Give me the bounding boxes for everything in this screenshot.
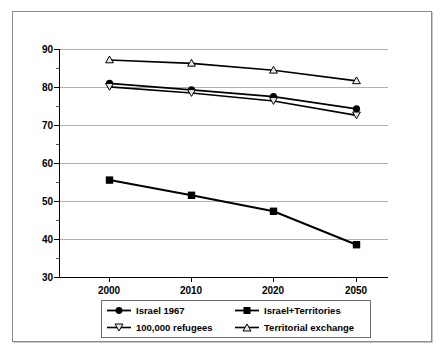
legend-marker-triangle-up bbox=[234, 322, 260, 333]
y-axis-major-ticks bbox=[54, 50, 59, 278]
marker-square bbox=[188, 192, 195, 199]
legend-marker-filled-square bbox=[234, 305, 260, 316]
legend-marker-triangle-down bbox=[106, 322, 132, 333]
legend-item-100000-refugees[interactable]: 100,000 refugees bbox=[106, 322, 234, 333]
marker-square bbox=[270, 208, 277, 215]
legend-label: Israel 1967 bbox=[136, 306, 185, 316]
plot-canvas bbox=[13, 12, 433, 343]
legend-item-israel-territories[interactable]: Israel+Territories bbox=[234, 305, 376, 316]
legend-item-territorial-exchange[interactable]: Territorial exchange bbox=[234, 322, 376, 333]
marker-square bbox=[353, 241, 360, 248]
figure-frame: 90 80 70 60 50 40 30 2000 2010 2020 2050 bbox=[12, 11, 432, 342]
marker-square bbox=[106, 176, 113, 183]
legend-label: Territorial exchange bbox=[264, 323, 354, 333]
legend-item-israel-1967[interactable]: Israel 1967 bbox=[106, 305, 234, 316]
legend-label: Israel+Territories bbox=[264, 306, 341, 316]
legend-label: 100,000 refugees bbox=[136, 323, 213, 333]
legend-marker-filled-circle bbox=[106, 305, 132, 316]
chart-legend: Israel 1967 Israel+Territories 100,000 r… bbox=[101, 300, 371, 338]
marker-circle bbox=[353, 105, 360, 112]
line-chart: 90 80 70 60 50 40 30 2000 2010 2020 2050 bbox=[13, 12, 433, 343]
